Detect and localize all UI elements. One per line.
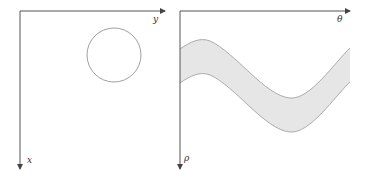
circle-shape <box>87 28 141 82</box>
rho-axis-label: ρ <box>183 153 190 163</box>
x-axis-label: x <box>27 155 32 165</box>
y-axis-label: y <box>152 14 159 24</box>
theta-axis-label: θ <box>337 14 343 24</box>
hough-space-panel: θ ρ <box>180 11 350 169</box>
diagram-canvas: y x θ ρ <box>0 0 367 179</box>
image-space-panel: y x <box>20 11 165 169</box>
